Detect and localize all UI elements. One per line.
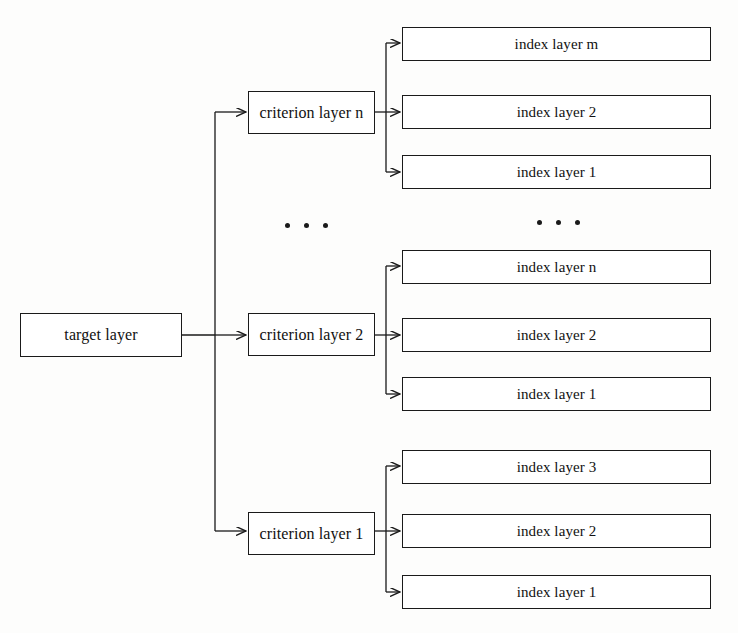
- ellipsis-dot: [556, 220, 561, 225]
- node-target-layer-label: target layer: [64, 327, 137, 343]
- node-index-n-1[interactable]: index layer m: [402, 27, 711, 61]
- node-index-1-2-label: index layer 2: [517, 524, 597, 539]
- node-index-1-3-label: index layer 1: [517, 585, 597, 600]
- diagram-canvas: target layer criterion layer n criterion…: [0, 0, 738, 633]
- node-index-1-2[interactable]: index layer 2: [402, 514, 711, 548]
- node-criterion-layer-n-label: criterion layer n: [260, 105, 364, 121]
- node-target-layer[interactable]: target layer: [20, 313, 182, 357]
- node-criterion-layer-1[interactable]: criterion layer 1: [248, 512, 375, 555]
- ellipsis-dot: [537, 220, 542, 225]
- node-index-n-3[interactable]: index layer 1: [402, 155, 711, 189]
- node-index-1-1[interactable]: index layer 3: [402, 450, 711, 484]
- node-criterion-layer-2[interactable]: criterion layer 2: [248, 313, 375, 356]
- node-index-2-3-label: index layer 1: [517, 387, 597, 402]
- node-criterion-layer-2-label: criterion layer 2: [260, 327, 364, 343]
- ellipsis-dot: [323, 223, 328, 228]
- index-column-ellipsis: [537, 220, 580, 225]
- node-index-n-2-label: index layer 2: [517, 105, 597, 120]
- node-criterion-layer-n[interactable]: criterion layer n: [248, 91, 375, 134]
- node-index-1-1-label: index layer 3: [517, 460, 597, 475]
- node-index-2-2[interactable]: index layer 2: [402, 318, 711, 352]
- node-index-1-3[interactable]: index layer 1: [402, 575, 711, 609]
- node-index-n-3-label: index layer 1: [517, 165, 597, 180]
- ellipsis-dot: [575, 220, 580, 225]
- node-index-2-2-label: index layer 2: [517, 328, 597, 343]
- node-index-n-1-label: index layer m: [515, 37, 599, 52]
- node-index-2-3[interactable]: index layer 1: [402, 377, 711, 411]
- node-criterion-layer-1-label: criterion layer 1: [260, 526, 364, 542]
- node-index-n-2[interactable]: index layer 2: [402, 95, 711, 129]
- ellipsis-dot: [285, 223, 290, 228]
- node-index-2-1[interactable]: index layer n: [402, 250, 711, 284]
- criterion-column-ellipsis: [285, 223, 328, 228]
- node-index-2-1-label: index layer n: [517, 260, 597, 275]
- ellipsis-dot: [304, 223, 309, 228]
